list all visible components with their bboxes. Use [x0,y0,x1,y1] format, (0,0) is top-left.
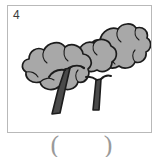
picture-card: 4 [7,5,152,133]
close-parenthesis: ) [104,134,113,156]
answer-blank[interactable]: ( ) [0,134,163,157]
parenthesis-group[interactable]: ( ) [51,134,113,157]
right-trunk [86,76,111,110]
item-number-label: 4 [13,8,20,22]
open-parenthesis: ( [51,134,60,156]
two-trees-illustration [8,6,151,132]
worksheet-item: 4 [0,0,163,157]
